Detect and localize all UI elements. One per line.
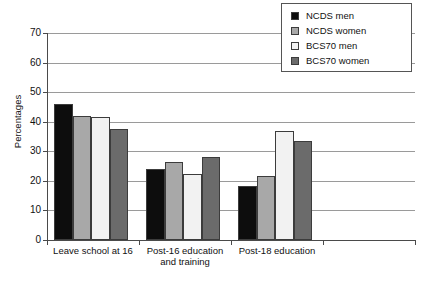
legend: NCDS menNCDS womenBCS70 menBCS70 women	[281, 3, 412, 72]
y-tick-mark	[43, 122, 48, 123]
legend-item[interactable]: BCS70 men	[291, 38, 411, 53]
legend-item[interactable]: BCS70 women	[291, 53, 411, 68]
y-axis-title: Percentages	[12, 72, 23, 172]
bar	[275, 131, 294, 240]
bar	[54, 104, 73, 240]
y-tick-label: 10	[30, 205, 41, 215]
legend-swatch-icon	[291, 42, 299, 50]
y-tick-label: 50	[30, 87, 41, 97]
legend-swatch-icon	[291, 57, 299, 65]
bar	[183, 174, 202, 240]
legend-label: NCDS women	[306, 26, 366, 36]
y-tick-mark	[43, 92, 48, 93]
bar	[73, 116, 92, 240]
y-tick-label: 40	[30, 117, 41, 127]
bar	[165, 162, 184, 240]
category-label-line: Post-18 education	[218, 245, 336, 256]
bar	[294, 141, 313, 240]
bar	[91, 117, 110, 240]
x-tick-mark	[415, 240, 416, 245]
bar	[238, 186, 257, 240]
legend-item[interactable]: NCDS women	[291, 23, 411, 38]
bar	[257, 176, 276, 240]
legend-label: NCDS men	[306, 11, 354, 21]
y-tick-label: 70	[30, 28, 41, 38]
legend-swatch-icon	[291, 12, 299, 20]
category-label-line: and training	[126, 256, 244, 267]
legend-swatch-icon	[291, 27, 299, 35]
legend-label: BCS70 men	[306, 41, 357, 51]
y-tick-label: 20	[30, 176, 41, 186]
legend-label: BCS70 women	[306, 56, 369, 66]
y-tick-mark	[43, 181, 48, 182]
y-tick-mark	[43, 63, 48, 64]
y-tick-mark	[43, 151, 48, 152]
bar	[110, 129, 129, 240]
y-tick-label: 30	[30, 146, 41, 156]
legend-item[interactable]: NCDS men	[291, 8, 411, 23]
y-tick-label: 0	[35, 235, 41, 245]
bar-chart: Percentages 010203040506070 Leave school…	[0, 0, 425, 289]
bar	[146, 169, 165, 240]
category-label: Post-18 education	[218, 245, 336, 256]
y-tick-label: 60	[30, 58, 41, 68]
y-tick-mark	[43, 210, 48, 211]
bar	[202, 157, 221, 240]
gridline	[47, 92, 415, 93]
y-tick-mark	[43, 33, 48, 34]
